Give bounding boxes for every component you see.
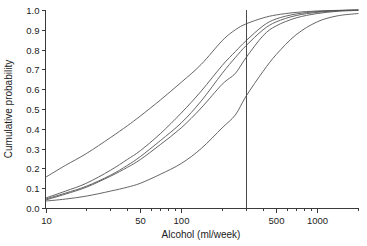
curves-layer bbox=[46, 10, 359, 201]
y-axis-title: Cumulative probability bbox=[3, 60, 14, 158]
x-axis-title: Alcohol (ml/week) bbox=[162, 229, 241, 240]
x-tick-label: 100 bbox=[174, 215, 190, 226]
cumulative-probability-plot: 0.00.10.20.30.40.50.60.70.80.91.0 105010… bbox=[0, 0, 367, 246]
x-tick-label: 50 bbox=[135, 215, 146, 226]
y-tick-label: 0.2 bbox=[26, 163, 39, 174]
y-tick-label: 0.9 bbox=[26, 25, 39, 36]
y-tick-label: 0.8 bbox=[26, 45, 39, 56]
y-tick-label: 0.1 bbox=[26, 183, 39, 194]
labels-layer: 0.00.10.20.30.40.50.60.70.80.91.0 105010… bbox=[3, 5, 328, 240]
y-tick-label: 0.6 bbox=[26, 84, 39, 95]
x-tick-label: 1000 bbox=[307, 215, 328, 226]
y-tick-label: 0.7 bbox=[26, 64, 39, 75]
y-tick-labels: 0.00.10.20.30.40.50.60.70.80.91.0 bbox=[26, 5, 39, 214]
y-tick-label: 0.0 bbox=[26, 203, 39, 214]
curve-curve-1 bbox=[46, 10, 359, 177]
y-tick-label: 0.4 bbox=[26, 124, 39, 135]
curve-curve-2 bbox=[46, 10, 359, 198]
x-tick-label: 500 bbox=[269, 215, 285, 226]
y-tick-marks bbox=[42, 11, 46, 209]
y-tick-label: 0.5 bbox=[26, 104, 39, 115]
y-tick-label: 0.3 bbox=[26, 144, 39, 155]
x-tick-labels: 10501005001000 bbox=[41, 215, 328, 226]
chart-figure: 0.00.10.20.30.40.50.60.70.80.91.0 105010… bbox=[0, 0, 367, 246]
y-tick-label: 1.0 bbox=[26, 5, 39, 16]
curve-curve-4 bbox=[46, 10, 359, 200]
curve-curve-3 bbox=[46, 10, 359, 199]
x-tick-label: 10 bbox=[41, 215, 52, 226]
